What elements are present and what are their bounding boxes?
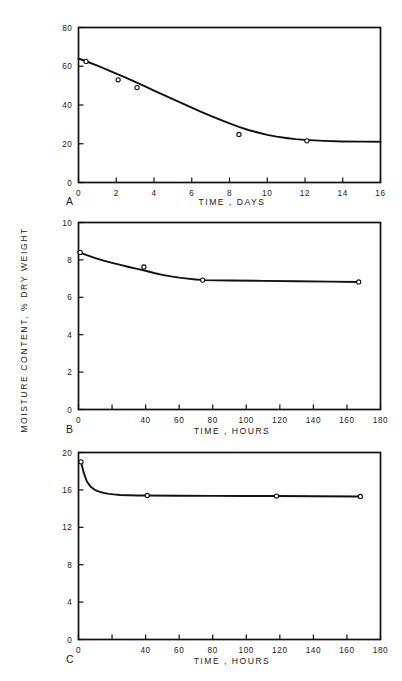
- y-tick-label: 2: [67, 368, 72, 377]
- panel-a-x-axis-title: TIME , DAYS: [199, 197, 266, 207]
- y-tick-label: 80: [62, 24, 72, 33]
- y-tick-label: 10: [62, 219, 72, 228]
- x-tick-label: 0: [76, 646, 81, 655]
- panel-a-curve: [79, 59, 381, 142]
- x-tick-label: 80: [208, 646, 218, 655]
- y-tick-label: 20: [62, 449, 72, 458]
- x-tick-label: 12: [300, 189, 310, 198]
- panel-b-curve: [79, 252, 359, 282]
- panel-c-letter: C: [66, 653, 74, 665]
- x-tick-label: 100: [239, 646, 254, 655]
- data-point-marker: [274, 494, 278, 498]
- figure-root: MOISTURE CONTENT, % DRY WEIGHT 024681012…: [0, 0, 402, 681]
- panel-c-frame: [79, 453, 381, 640]
- y-tick-label: 0: [67, 636, 72, 645]
- panel-c-curve: [81, 462, 360, 497]
- y-tick-label: 8: [67, 256, 72, 265]
- y-tick-label: 0: [67, 406, 72, 415]
- panel-c-tick-labels: 0406080100120140160180048121620: [62, 449, 388, 655]
- y-tick-label: 16: [62, 486, 72, 495]
- y-tick-label: 4: [67, 331, 72, 340]
- panel-a-letter: A: [66, 195, 74, 207]
- panel-a-ticks: [79, 28, 381, 183]
- x-tick-label: 100: [239, 416, 254, 425]
- x-tick-label: 60: [174, 416, 184, 425]
- data-point-marker: [237, 132, 241, 136]
- x-tick-label: 40: [140, 416, 150, 425]
- x-tick-label: 60: [174, 646, 184, 655]
- panel-a: 0246810121416020406080 TIME , DAYS A: [62, 24, 385, 208]
- panel-c-markers: [79, 460, 363, 499]
- y-tick-label: 12: [62, 523, 72, 532]
- shared-y-axis-label: MOISTURE CONTENT, % DRY WEIGHT: [19, 227, 29, 433]
- data-point-marker: [305, 139, 309, 143]
- panel-a-markers: [84, 59, 309, 143]
- x-tick-label: 180: [373, 416, 388, 425]
- x-tick-label: 16: [375, 189, 385, 198]
- y-tick-label: 40: [62, 101, 72, 110]
- x-tick-label: 0: [76, 416, 81, 425]
- data-point-marker: [358, 494, 362, 498]
- panel-a-tick-labels: 0246810121416020406080: [62, 24, 385, 198]
- x-tick-label: 4: [151, 189, 156, 198]
- data-point-marker: [78, 250, 82, 254]
- panel-a-frame: [79, 28, 381, 183]
- x-tick-label: 120: [272, 646, 287, 655]
- data-point-marker: [357, 280, 361, 284]
- moisture-content-figure: MOISTURE CONTENT, % DRY WEIGHT 024681012…: [0, 0, 402, 681]
- x-tick-label: 120: [272, 416, 287, 425]
- y-tick-label: 4: [67, 598, 72, 607]
- x-tick-label: 180: [373, 646, 388, 655]
- data-point-marker: [142, 265, 146, 269]
- panel-b: 04060801001201401601800246810 TIME , HOU…: [62, 219, 388, 437]
- panel-c-ticks: [79, 453, 381, 640]
- x-tick-label: 160: [339, 646, 354, 655]
- data-point-marker: [145, 493, 149, 497]
- x-tick-label: 140: [306, 646, 321, 655]
- data-point-marker: [135, 85, 139, 89]
- x-tick-label: 14: [338, 189, 348, 198]
- x-tick-label: 6: [189, 189, 194, 198]
- x-tick-label: 140: [306, 416, 321, 425]
- panel-b-markers: [78, 250, 361, 284]
- data-point-marker: [201, 278, 205, 282]
- x-tick-label: 40: [140, 646, 150, 655]
- panel-c-x-axis-title: TIME , HOURS: [194, 656, 271, 666]
- x-tick-label: 80: [208, 416, 218, 425]
- y-tick-label: 6: [67, 293, 72, 302]
- x-tick-label: 160: [339, 416, 354, 425]
- y-tick-label: 60: [62, 62, 72, 71]
- y-tick-label: 20: [62, 140, 72, 149]
- panel-b-tick-labels: 04060801001201401601800246810: [62, 219, 388, 425]
- y-tick-label: 0: [67, 179, 72, 188]
- data-point-marker: [84, 59, 88, 63]
- panel-b-ticks: [79, 223, 381, 410]
- data-point-marker: [116, 78, 120, 82]
- x-tick-label: 2: [114, 189, 119, 198]
- panel-b-letter: B: [66, 423, 74, 435]
- x-tick-label: 0: [76, 189, 81, 198]
- panel-b-x-axis-title: TIME , HOURS: [194, 426, 271, 436]
- y-tick-label: 8: [67, 561, 72, 570]
- panel-c: 0406080100120140160180048121620 TIME , H…: [62, 449, 388, 667]
- panel-b-frame: [79, 223, 381, 410]
- data-point-marker: [79, 460, 83, 464]
